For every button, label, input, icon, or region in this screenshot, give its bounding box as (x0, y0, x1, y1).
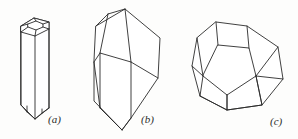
figure-label-c: (c) (270, 116, 282, 127)
crystal-c-outline (192, 22, 283, 110)
crystal-c-pentagonal-dodecahedron (192, 22, 283, 110)
figure-label-a: (a) (48, 114, 61, 125)
crystal-forms-figure: (a) (b) (c) (0, 0, 298, 139)
figure-label-b: (b) (141, 114, 154, 125)
crystal-a-hexagonal-prism (21, 18, 49, 119)
crystal-b-monoclinic-prism (94, 9, 160, 130)
